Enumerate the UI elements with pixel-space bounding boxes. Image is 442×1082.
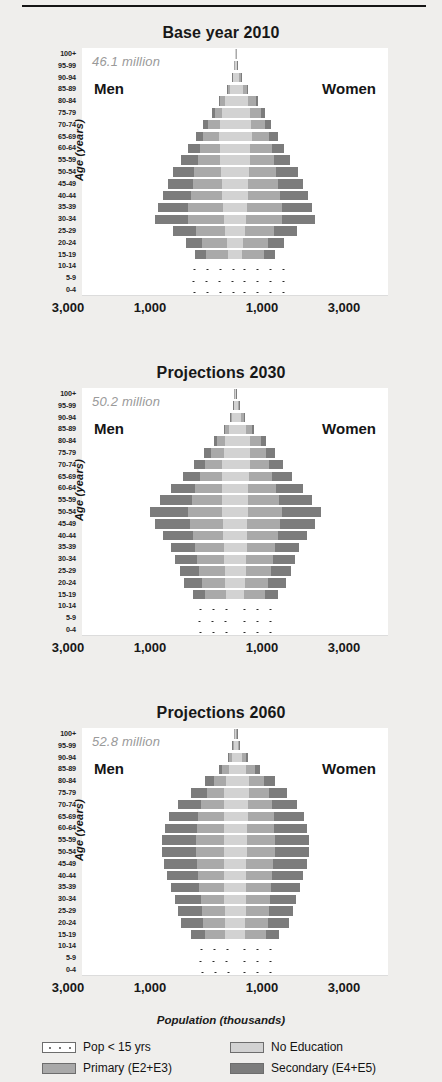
bar-segment-no-education	[222, 108, 235, 117]
age-tick-label: 75-79	[31, 789, 76, 796]
bar-segment-no-education	[225, 906, 235, 915]
bar-segment-secondary	[162, 847, 196, 856]
bar-segment-pop-under-15	[235, 262, 285, 271]
bar-segment-secondary	[275, 835, 309, 844]
pyramid-row	[82, 413, 388, 422]
bar-segment-primary	[205, 930, 226, 939]
bar-segment-no-education	[224, 800, 235, 809]
bar-segment-secondary	[158, 203, 189, 212]
bar-segment-no-education	[235, 132, 252, 141]
age-tick-label: 90-94	[31, 754, 76, 761]
bar-segment-primary	[230, 413, 232, 422]
age-tick-label: 90-94	[31, 74, 76, 81]
bar-segment-primary	[203, 918, 225, 927]
legend-item: No Education	[230, 1040, 343, 1054]
bar-segment-secondary	[171, 543, 195, 552]
bar-segment-secondary	[163, 531, 192, 540]
bar-segment-primary	[217, 436, 225, 445]
bar-segment-primary	[248, 179, 278, 188]
age-tick-labels: 100+95-9990-9485-8980-8475-7970-7465-696…	[31, 48, 76, 296]
legend-item: Pop < 15 yrs	[42, 1040, 151, 1054]
age-tick-labels: 100+95-9990-9485-8980-8475-7970-7465-696…	[31, 388, 76, 636]
bar-segment-secondary	[268, 578, 286, 587]
age-tick-label: 5-9	[31, 274, 76, 281]
age-tick-label: 25-29	[31, 567, 76, 574]
age-tick-label: 60-64	[31, 144, 76, 151]
pyramid-row	[82, 812, 388, 821]
bar-segment-secondary	[186, 238, 203, 247]
bar-segment-pop-under-15	[185, 262, 235, 271]
age-tick-label: 100+	[31, 390, 76, 397]
legend-item: Secondary (E4+E5)	[230, 1061, 376, 1075]
bar-segment-secondary	[282, 507, 321, 516]
pyramid-row	[82, 215, 388, 224]
pyramid-row	[82, 847, 388, 856]
bar-segment-no-education	[235, 824, 247, 833]
bar-segment-secondary	[150, 507, 188, 516]
bar-segment-secondary	[228, 753, 229, 762]
pyramid-row	[82, 614, 388, 623]
bar-segment-no-education	[235, 155, 250, 164]
bar-segment-primary	[211, 448, 224, 457]
age-tick-label: 0-4	[31, 966, 76, 973]
pyramid-row	[82, 262, 388, 271]
bar-segment-secondary	[272, 871, 303, 880]
bar-segment-secondary	[165, 824, 197, 833]
age-tick-label: 20-24	[31, 579, 76, 586]
pyramid-row	[82, 96, 388, 105]
bar-segment-no-education	[235, 472, 249, 481]
bar-segment-no-education	[225, 436, 235, 445]
bar-segment-primary	[249, 167, 277, 176]
pyramid-row	[82, 448, 388, 457]
age-tick-label: 55-59	[31, 156, 76, 163]
bar-segment-primary	[246, 566, 271, 575]
bar-segment-secondary	[167, 871, 198, 880]
bar-segment-primary	[246, 765, 255, 774]
bar-segment-no-education	[225, 226, 235, 235]
bar-segment-secondary	[271, 566, 291, 575]
age-tick-label: 85-89	[31, 425, 76, 432]
age-tick-label: 30-34	[31, 895, 76, 902]
bar-segment-no-education	[221, 167, 235, 176]
bar-segment-pop-under-15	[191, 602, 235, 611]
bar-segment-no-education	[235, 800, 248, 809]
bar-segment-pop-under-15	[235, 965, 277, 974]
x-tick-label: 3,000	[328, 300, 361, 315]
bar-segment-no-education	[220, 120, 235, 129]
plot-area: Age (years)100+95-9990-9485-8980-8475-79…	[82, 48, 388, 296]
bar-segment-primary	[207, 788, 225, 797]
bar-segment-secondary	[261, 108, 265, 117]
bar-segment-secondary	[191, 788, 206, 797]
bar-segment-primary	[188, 215, 224, 224]
bar-segment-secondary	[276, 484, 303, 493]
bar-segment-secondary	[266, 930, 280, 939]
bar-segment-pop-under-15	[192, 942, 235, 951]
bar-segment-no-education	[235, 238, 243, 247]
bar-segment-primary	[246, 895, 270, 904]
bar-segment-no-education	[235, 215, 246, 224]
x-tick-label: 1,000	[134, 300, 167, 315]
pyramid-row	[82, 776, 388, 785]
age-tick-label: 35-39	[31, 883, 76, 890]
bar-segment-secondary	[274, 155, 290, 164]
pyramid-row	[82, 788, 388, 797]
age-tick-label: 95-99	[31, 742, 76, 749]
bar-segment-secondary	[171, 484, 195, 493]
pyramid-row	[82, 250, 388, 259]
bar-segment-no-education	[235, 566, 246, 575]
pyramid-row	[82, 566, 388, 575]
bar-segment-no-education	[235, 578, 245, 587]
bar-segment-no-education	[222, 472, 235, 481]
bar-segment-no-education	[235, 859, 246, 868]
bar-segment-primary	[201, 800, 223, 809]
pyramid-row	[82, 895, 388, 904]
age-tick-label: 30-34	[31, 555, 76, 562]
bar-segment-secondary	[175, 895, 201, 904]
bar-segment-primary	[244, 590, 265, 599]
bar-segment-no-education	[235, 144, 250, 153]
chart-legend: Pop < 15 yrsNo EducationPrimary (E2+E3)S…	[0, 1040, 442, 1082]
pyramid-row	[82, 800, 388, 809]
age-tick-label: 5-9	[31, 614, 76, 621]
pyramid-row	[82, 401, 388, 410]
bar-segment-no-education	[222, 495, 235, 504]
